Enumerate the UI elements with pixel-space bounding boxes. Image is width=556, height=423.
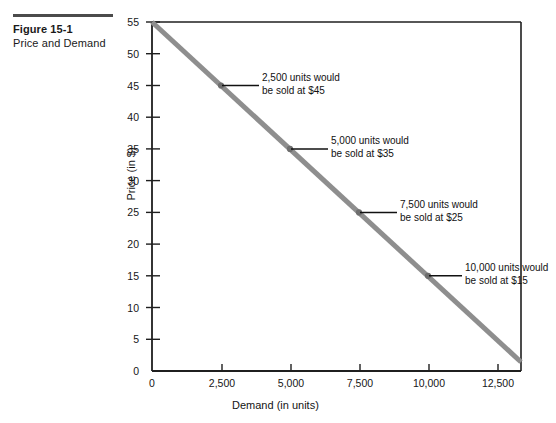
annotation-line-2: be sold at $15 <box>465 275 548 288</box>
x-tick-label-12500: 12,500 <box>468 377 528 389</box>
x-tick-label-2500: 2,500 <box>192 377 252 389</box>
x-tick-label-0: 0 <box>122 377 182 389</box>
price-demand-chart: 55 50 45 40 35 30 25 20 15 10 5 0 0 2,50… <box>0 0 556 423</box>
y-tick-label-10: 10 <box>113 302 139 314</box>
annotation-line-2: be sold at $45 <box>262 85 340 98</box>
y-axis-ticks <box>146 22 160 339</box>
annotation-line-1: 5,000 units would <box>331 135 409 148</box>
y-tick-label-20: 20 <box>113 238 139 250</box>
x-tick-label-10000: 10,000 <box>399 377 459 389</box>
annotation-line-1: 7,500 units would <box>400 199 478 212</box>
annotation-10000-units: 10,000 units would be sold at $15 <box>465 262 548 287</box>
y-tick-label-0: 0 <box>113 365 139 377</box>
annotation-line-1: 2,500 units would <box>262 72 340 85</box>
annotation-7500-units: 7,500 units would be sold at $25 <box>400 199 478 224</box>
y-tick-label-45: 45 <box>113 80 139 92</box>
annotation-line-2: be sold at $25 <box>400 212 478 225</box>
x-axis-title: Demand (in units) <box>232 399 319 411</box>
annotation-2500-units: 2,500 units would be sold at $45 <box>262 72 340 97</box>
y-tick-label-5: 5 <box>113 333 139 345</box>
y-tick-label-50: 50 <box>113 48 139 60</box>
annotation-line-2: be sold at $35 <box>331 148 409 161</box>
annotation-5000-units: 5,000 units would be sold at $35 <box>331 135 409 160</box>
x-tick-label-7500: 7,500 <box>330 377 390 389</box>
annotation-line-1: 10,000 units would <box>465 262 548 275</box>
y-tick-label-15: 15 <box>113 270 139 282</box>
annotation-leader-lines <box>222 86 462 276</box>
y-tick-label-55: 55 <box>113 16 139 28</box>
y-axis-title: Price (in $) <box>125 129 137 219</box>
x-tick-label-5000: 5,000 <box>261 377 321 389</box>
y-tick-label-40: 40 <box>113 111 139 123</box>
x-axis-ticks <box>222 364 498 371</box>
